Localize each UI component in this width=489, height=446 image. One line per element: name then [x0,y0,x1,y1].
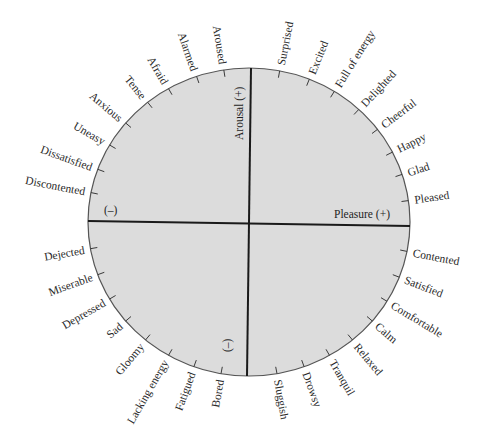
emotion-label: Discontented [24,174,86,197]
emotion-label: Fatigued [172,370,198,412]
emotion-label: Sluggish [271,379,291,421]
emotion-label: Dejected [43,244,86,264]
emotion-label: Relaxed [352,341,386,378]
emotion-label: Afraid [145,54,171,86]
emotion-label: Bored [209,378,226,408]
emotion-label: Excited [306,39,330,76]
emotion-label: Calm [373,320,400,345]
emotion-label: Drowsy [300,370,325,409]
emotion-label: Gloomy [113,341,147,378]
emotion-label: Happy [395,130,428,156]
arousal-axis-label: Arousal (+) [233,86,246,140]
emotion-label: Cheerful [379,97,418,131]
emotion-label: Depressed [60,297,108,332]
emotion-label: Lacking energy [124,357,171,426]
emotion-label: Delighted [359,68,400,110]
emotion-label: Aroused [211,25,229,66]
pleasure-axis-label: Pleasure (+) [334,208,390,221]
emotion-label: Sad [104,320,125,340]
emotion-label: Dissatisfied [39,143,94,173]
arousal-minus-label: (–) [221,338,234,352]
emotion-label: Contented [412,247,461,268]
emotion-label: Tranquil [326,358,357,398]
emotion-label: Tense [122,73,148,101]
emotion-label: Anxious [87,90,125,125]
emotion-label: Miserable [47,271,94,298]
emotion-label: Uneasy [71,120,108,149]
emotion-label: Glad [406,160,431,178]
circumplex-diagram: Arousal (+) Pleasure (+) (–) (–) Pleased… [0,0,489,446]
emotion-label: Pleased [414,189,451,206]
emotion-label: Alarmed [176,31,201,73]
emotion-label: Satisfied [403,274,445,300]
emotion-label: Surprised [275,20,296,66]
emotion-label: Full of energy [332,28,378,90]
pleasure-minus-label: (–) [104,204,118,217]
